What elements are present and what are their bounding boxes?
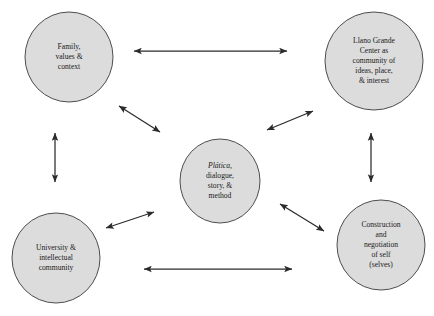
node-llano-grande-center: Llano GrandeCenter ascommunity ofideas, … — [325, 12, 423, 110]
node-university-intellectual-community: University &intellectualcommunity — [12, 213, 100, 303]
university-intellectual-community-label: University &intellectualcommunity — [36, 243, 76, 272]
family-values-context-label: Family,values &context — [55, 42, 82, 71]
node-family-values-context: Family,values &context — [25, 12, 113, 102]
platica-dialogue-story-method-label: Plática,dialogue,story, &method — [206, 160, 234, 200]
node-layer: Family,values &contextLlano GrandeCenter… — [12, 12, 425, 303]
connector-family-to-platica — [119, 106, 160, 132]
diagram-container: Family,values &contextLlano GrandeCenter… — [0, 0, 434, 316]
connector-construction-to-platica — [280, 204, 324, 231]
connector-llano-to-platica — [267, 111, 313, 130]
node-platica-dialogue-story-method: Plática,dialogue,story, &method — [180, 139, 260, 223]
diagram-canvas: Family,values &contextLlano GrandeCenter… — [0, 0, 434, 316]
node-construction-negotiation-of-self: Constructionandnegotiationof self(selves… — [337, 200, 425, 290]
connector-university-to-platica — [106, 212, 154, 228]
